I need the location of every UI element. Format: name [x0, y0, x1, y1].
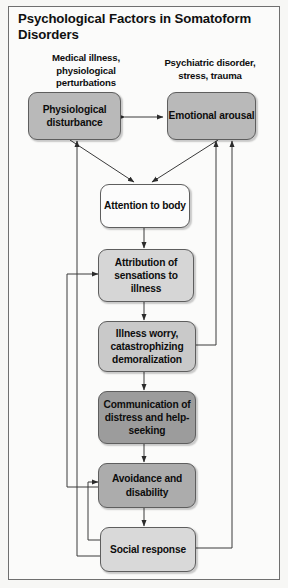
node-social-response[interactable]: Social response	[100, 527, 196, 572]
caption-medical-illness: Medical illness, physiological perturbat…	[30, 52, 142, 90]
node-emotional-arousal[interactable]: Emotional arousal	[167, 92, 256, 140]
node-illness-worry[interactable]: Illness worry, catastrophizing demoraliz…	[98, 321, 196, 372]
node-communication-of-distress[interactable]: Communication of distress and help-seeki…	[98, 391, 196, 444]
node-attention-to-body[interactable]: Attention to body	[100, 184, 190, 228]
figure-panel: Psychological Factors in Somatoform Diso…	[0, 0, 288, 588]
figure-title: Psychological Factors in Somatoform Diso…	[18, 11, 270, 43]
caption-psychiatric-disorder: Psychiatric disorder, stress, trauma	[158, 57, 262, 82]
node-physiological-disturbance[interactable]: Physiological disturbance	[28, 92, 121, 140]
node-avoidance-and-disability[interactable]: Avoidance and disability	[98, 463, 196, 508]
node-attribution-of-sensations[interactable]: Attribution of sensations to illness	[98, 249, 194, 302]
